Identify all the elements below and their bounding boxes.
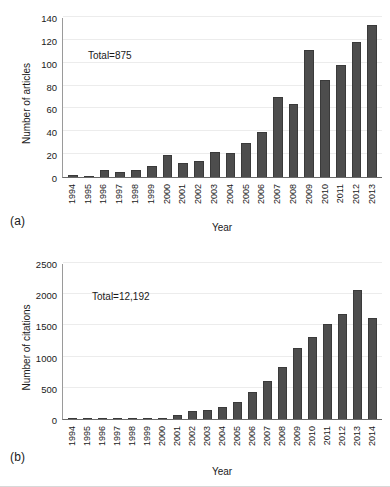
- bar-slot: [65, 18, 81, 177]
- x-tick-slot: 2009: [290, 424, 305, 464]
- bar: [233, 402, 242, 419]
- gridline: [63, 16, 382, 17]
- x-tick-slot: 2012: [335, 424, 350, 464]
- bar-slot: [81, 18, 97, 177]
- y-tick-label: 1500: [36, 321, 57, 332]
- figure-container: Number of articles 020406080100120140 19…: [0, 0, 390, 487]
- x-tick-label: 1994: [67, 426, 77, 446]
- total-annotation-citations: Total=12,192: [92, 291, 150, 302]
- bar-slot: [260, 264, 275, 419]
- x-tick-slot: 2005: [238, 182, 254, 220]
- y-axis-ticks-articles: 020406080100120140: [0, 18, 57, 178]
- bar-slot: [140, 264, 155, 419]
- x-tick-label: 2004: [225, 184, 235, 204]
- bar: [273, 97, 283, 177]
- bar-series-citations: [63, 264, 382, 419]
- x-axis-ticks-articles: 1994199519961997199819992000200120022003…: [62, 182, 382, 220]
- bar-slot: [335, 264, 350, 419]
- bar-slot: [230, 264, 245, 419]
- x-tick-slot: 1996: [94, 424, 109, 464]
- x-tick-label: 2000: [157, 426, 167, 446]
- x-tick-slot: 1995: [80, 182, 96, 220]
- bar-slot: [320, 264, 335, 419]
- x-tick-slot: 1998: [127, 182, 143, 220]
- bar: [98, 418, 107, 420]
- bar: [188, 411, 197, 419]
- bar-slot: [365, 264, 380, 419]
- x-tick-slot: 2013: [364, 182, 380, 220]
- x-tick-slot: 2002: [184, 424, 199, 464]
- y-tick-label: 60: [46, 104, 57, 115]
- bar-slot: [80, 264, 95, 419]
- chart-panel-citations: Number of citations 05001000150020002500…: [0, 244, 390, 487]
- bar: [83, 418, 92, 420]
- chart-panel-articles: Number of articles 020406080100120140 19…: [0, 0, 390, 244]
- x-tick-label: 1995: [82, 426, 92, 446]
- x-tick-slot: 2000: [154, 424, 169, 464]
- bar: [304, 50, 314, 177]
- y-tick-label: 1000: [36, 352, 57, 363]
- x-tick-slot: 2004: [214, 424, 229, 464]
- x-tick-slot: 1999: [139, 424, 154, 464]
- x-tick-label: 2008: [277, 426, 287, 446]
- bar-slot: [128, 18, 144, 177]
- bar: [178, 163, 188, 177]
- x-tick-slot: 2011: [320, 424, 335, 464]
- bar-slot: [317, 18, 333, 177]
- x-tick-label: 2008: [288, 184, 298, 204]
- x-tick-slot: 2010: [317, 182, 333, 220]
- x-tick-slot: 1994: [64, 182, 80, 220]
- x-tick-label: 2012: [351, 184, 361, 204]
- y-tick-label: 20: [46, 150, 57, 161]
- y-tick-label: 500: [41, 383, 57, 394]
- bar: [352, 42, 362, 177]
- bar-slot: [185, 264, 200, 419]
- x-tick-label: 2013: [367, 184, 377, 204]
- bar: [113, 418, 122, 420]
- x-tick-slot: 2005: [230, 424, 245, 464]
- x-tick-slot: 2011: [333, 182, 349, 220]
- bar: [218, 407, 227, 419]
- x-tick-label: 2009: [304, 184, 314, 204]
- x-axis-title-citations: Year: [62, 466, 382, 477]
- x-tick-slot: 2009: [301, 182, 317, 220]
- x-tick-label: 2006: [247, 426, 257, 446]
- bar-slot: [215, 264, 230, 419]
- bar: [173, 415, 182, 419]
- x-tick-slot: 2006: [254, 182, 270, 220]
- x-tick-slot: 2001: [175, 182, 191, 220]
- bar: [338, 314, 347, 419]
- y-tick-label: 0: [52, 415, 57, 426]
- bar-slot: [191, 18, 207, 177]
- x-tick-label: 2001: [172, 426, 182, 446]
- bar-slot: [350, 264, 365, 419]
- x-tick-label: 1996: [98, 184, 108, 204]
- bar-slot: [97, 18, 113, 177]
- x-tick-label: 1998: [127, 426, 137, 446]
- x-tick-label: 1998: [130, 184, 140, 204]
- x-tick-slot: 2008: [285, 182, 301, 220]
- y-tick-label: 140: [41, 13, 57, 24]
- y-tick-label: 0: [52, 173, 57, 184]
- x-tick-slot: 2000: [159, 182, 175, 220]
- x-tick-label: 2002: [193, 184, 203, 204]
- x-tick-slot: 2004: [222, 182, 238, 220]
- bar: [131, 170, 141, 177]
- x-tick-label: 2000: [162, 184, 172, 204]
- bar: [353, 290, 362, 419]
- x-tick-slot: 2013: [350, 424, 365, 464]
- x-tick-label: 1995: [83, 184, 93, 204]
- bar-slot: [290, 264, 305, 419]
- bar: [293, 348, 302, 419]
- x-tick-slot: 2010: [305, 424, 320, 464]
- bar: [84, 176, 94, 178]
- x-tick-label: 2001: [177, 184, 187, 204]
- x-tick-label: 2010: [320, 184, 330, 204]
- x-tick-label: 2011: [322, 426, 332, 445]
- x-tick-label: 2014: [367, 426, 377, 446]
- x-tick-label: 2007: [272, 184, 282, 204]
- bar: [278, 367, 287, 419]
- x-tick-slot: 2014: [365, 424, 380, 464]
- bar: [194, 161, 204, 177]
- x-tick-label: 2002: [187, 426, 197, 446]
